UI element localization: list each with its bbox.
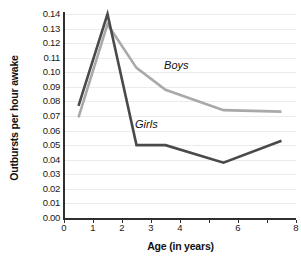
y-axis-line [63,12,65,220]
plot-area: BoysGirls [64,14,296,218]
y-tick-label: 0.04 [26,155,60,165]
x-axis-tick-labels: 0123468 [0,222,301,238]
series-label-girls: Girls [135,118,158,130]
x-tick-label: 6 [228,222,248,233]
y-tick-label: 0.06 [26,126,60,136]
y-tick-label: 0.10 [26,67,60,77]
x-tick-label: 8 [286,222,301,233]
y-tick-label: 0.08 [26,96,60,106]
y-tick-label: 0.09 [26,82,60,92]
y-tick-label: 0.03 [26,169,60,179]
y-tick-label: 0.13 [26,24,60,34]
y-tick-label: 0.02 [26,184,60,194]
y-axis-title: Outbursts per hour awake [8,18,20,218]
y-axis-tick-labels: 0.000.010.020.030.040.050.060.070.080.09… [22,0,60,222]
x-axis-title: Age (in years) [60,240,301,252]
x-tick-label: 0 [54,222,74,233]
x-tick-label: 1 [83,222,103,233]
y-tick-label: 0.14 [26,9,60,19]
y-tick-label: 0.12 [26,38,60,48]
y-tick-label: 0.05 [26,140,60,150]
y-tick-label: 0.07 [26,111,60,121]
line-series-girls [79,14,282,163]
chart-container: Outbursts per hour awake 0.000.010.020.0… [0,0,301,263]
x-tick-label: 2 [112,222,132,233]
series-label-boys: Boys [164,59,188,71]
y-tick-label: 0.11 [26,53,60,63]
x-tick-label: 4 [170,222,190,233]
series-lines [64,14,296,218]
x-tick-label: 3 [141,222,161,233]
y-tick-label: 0.01 [26,198,60,208]
